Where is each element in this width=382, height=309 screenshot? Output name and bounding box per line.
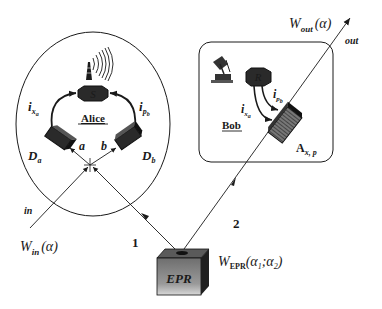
alice-title: Alice [81, 112, 105, 124]
alice-source-label: S [90, 88, 96, 100]
alice-ip-label: ipb [139, 99, 150, 117]
teleportation-diagram: S ixa ipb Alice Da Db a b [0, 0, 382, 309]
detector-a-label: Da [27, 148, 41, 165]
detector-a [45, 123, 77, 152]
input-beam-label: in [24, 205, 33, 216]
bob-ip-label: ipb [273, 87, 283, 104]
bob-receiver-label: R [254, 71, 262, 83]
alice-station: S ixa ipb Alice Da Db a b [16, 32, 170, 216]
input-beam [30, 167, 88, 228]
bob-receiver-device: R [246, 68, 271, 86]
wigner-epr-label: WEPR(α1;α2) [218, 254, 283, 271]
bob-ix-label: ixa [241, 102, 251, 119]
output-beam-label: out [345, 35, 360, 46]
wigner-in-label: Win(α) [20, 239, 58, 257]
radio-tower-icon [86, 47, 113, 81]
detector-b-label: Db [141, 148, 155, 165]
bob-modulator [266, 102, 305, 143]
wigner-out-label: Wout(α) [289, 16, 332, 34]
modulator-label: Ax, p [296, 141, 317, 157]
satellite-dish-icon [211, 56, 233, 83]
alice-ix-label: ixa [28, 99, 39, 117]
beam-1-label: 1 [132, 235, 139, 250]
alice-source-device: S [78, 86, 108, 101]
epr-source: EPR [157, 249, 209, 295]
epr-beam-2 [184, 18, 350, 249]
detector-b [112, 121, 144, 150]
beam-2-label: 2 [233, 216, 240, 231]
port-b-label: b [101, 139, 107, 153]
epr-source-label: EPR [165, 271, 192, 286]
alice-current-p-arrow [110, 93, 135, 128]
port-a-label: a [79, 139, 85, 153]
alice-current-x-arrow [52, 93, 77, 128]
bob-station: R ixa ipb Bob Ax, p [199, 42, 333, 162]
bob-title: Bob [222, 119, 241, 131]
